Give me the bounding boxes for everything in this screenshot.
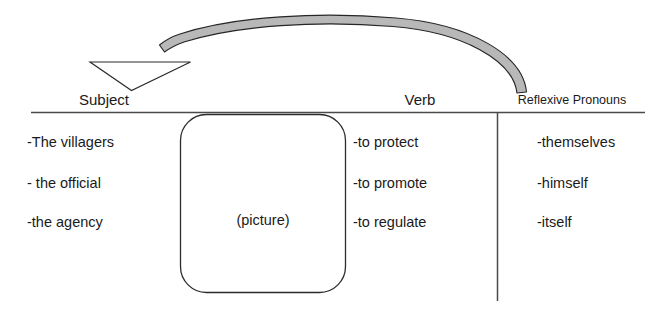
list-item: -the agency [27,215,103,230]
list-item: -themselves [537,135,615,150]
list-item: -itself [537,215,572,230]
diagram-canvas: Subject Verb Reflexive Pronouns -The vil… [0,0,654,314]
column-header-subject: Subject [0,92,208,107]
list-item: -himself [537,176,588,191]
list-item: -The villagers [27,135,114,150]
picture-placeholder-box [181,115,346,293]
reference-arrow-arc [160,15,527,93]
list-item: -to regulate [353,215,426,230]
list-item: - the official [27,176,101,191]
list-item: -to protect [353,135,418,150]
column-header-verb: Verb [345,92,495,107]
list-item: -to promote [353,176,427,191]
column-header-reflexive-pronouns: Reflexive Pronouns [497,94,647,107]
picture-placeholder-label: (picture) [180,213,346,228]
diagram-graphics [0,0,654,314]
reference-arrow-head [90,62,191,91]
